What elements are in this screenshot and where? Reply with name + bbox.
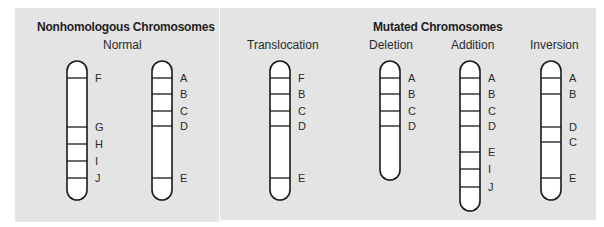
chromosome-body [67,61,87,200]
chromosome-deletion: ABCD [380,61,416,180]
chromosome-translocation: FBCDE [270,61,306,200]
chromosome-inversion: ABDCE [541,61,577,200]
band-label-e: E [180,172,187,184]
chromosome-diagram: FGHIJABCDEFBCDEABCDABCDEIJABDCE [0,0,604,227]
band-label-e: E [298,172,305,184]
chromosome-body [460,61,480,211]
band-label-d: D [180,120,188,132]
chromosome-body [152,61,172,200]
band-label-a: A [180,72,188,84]
band-label-f: F [95,72,102,84]
band-label-e: E [488,146,495,158]
band-label-a: A [408,72,416,84]
band-label-c: C [298,105,306,117]
band-label-b: B [408,88,415,100]
band-label-c: C [569,136,577,148]
chromosome-normal-2: ABCDE [152,61,188,200]
chromosome-addition: ABCDEIJ [460,61,496,211]
band-label-i: I [95,155,98,167]
band-label-c: C [180,105,188,117]
chromosome-normal-1: FGHIJ [67,61,104,200]
band-label-d: D [408,120,416,132]
band-label-j: J [488,181,494,193]
band-label-d: D [298,120,306,132]
band-label-a: A [569,72,577,84]
band-label-c: C [488,105,496,117]
band-label-g: G [95,121,104,133]
chromosome-body [270,61,290,200]
chromosome-body [541,61,561,200]
band-label-b: B [298,88,305,100]
band-label-c: C [408,105,416,117]
band-label-d: D [488,120,496,132]
band-label-a: A [488,72,496,84]
band-label-b: B [569,88,576,100]
band-label-i: I [488,163,491,175]
band-label-e: E [569,172,576,184]
band-label-b: B [180,88,187,100]
band-label-h: H [95,138,103,150]
chromosome-body [380,61,400,180]
band-label-d: D [569,121,577,133]
band-label-f: F [298,72,305,84]
band-label-j: J [95,172,101,184]
band-label-b: B [488,88,495,100]
